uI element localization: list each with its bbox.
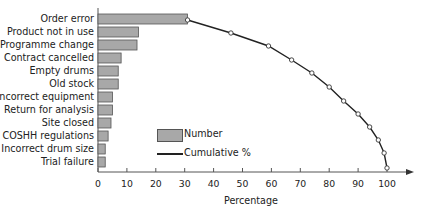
- category-label: COSHH regulations: [2, 130, 94, 142]
- cumulative-point-marker: [382, 151, 386, 155]
- category-label: Order error: [40, 13, 94, 25]
- category-label: Old stock: [49, 78, 94, 90]
- bar: [98, 14, 188, 24]
- cumulative-point-marker: [266, 44, 270, 48]
- bar: [98, 66, 118, 76]
- bar: [98, 118, 111, 128]
- category-label: Site closed: [42, 117, 94, 129]
- legend-cumulative-line: [157, 153, 183, 155]
- cumulative-point-marker: [185, 18, 189, 22]
- cumulative-point-marker: [327, 85, 331, 89]
- bar: [98, 79, 118, 89]
- x-tick-label: 50: [237, 178, 249, 189]
- x-tick-label: 80: [323, 178, 335, 189]
- x-tick-label: 40: [208, 178, 220, 189]
- bar: [98, 144, 105, 154]
- pareto-chart: Order errorProduct not in useProgramme c…: [0, 0, 426, 214]
- legend-number-swatch: [157, 129, 183, 142]
- cumulative-point-marker: [367, 125, 371, 129]
- category-label: Return for analysis: [4, 104, 94, 116]
- cumulative-point-marker: [289, 58, 293, 62]
- bar: [98, 40, 137, 50]
- cumulative-point-marker: [376, 138, 380, 142]
- cumulative-point-marker: [356, 112, 360, 116]
- category-label: Incorrect drum size: [1, 143, 94, 155]
- bar: [98, 105, 112, 115]
- bar: [98, 53, 121, 63]
- x-tick-label: 30: [179, 178, 191, 189]
- category-label: Empty drums: [30, 65, 94, 77]
- x-tick-label: 70: [294, 178, 306, 189]
- bar: [98, 157, 105, 167]
- legend-cumulative-label: Cumulative %: [184, 147, 251, 158]
- category-label: Contract cancelled: [4, 52, 94, 64]
- x-axis-title: Percentage: [224, 195, 278, 206]
- legend-number-label: Number: [184, 128, 223, 139]
- cumulative-point-marker: [229, 31, 233, 35]
- x-tick-label: 0: [95, 178, 101, 189]
- bar: [98, 92, 112, 102]
- category-label: Product not in use: [7, 26, 94, 38]
- category-label: Trial failure: [41, 156, 94, 168]
- cumulative-line: [188, 20, 387, 168]
- bar: [98, 27, 138, 37]
- x-axis-arrow-icon: [406, 169, 414, 175]
- x-tick-label: 60: [265, 178, 277, 189]
- category-label: Incorrect equipment: [0, 91, 94, 103]
- x-tick-label: 90: [352, 178, 364, 189]
- cumulative-point-marker: [310, 71, 314, 75]
- cumulative-point-marker: [341, 99, 345, 103]
- category-label: Programme change: [0, 39, 94, 51]
- x-tick-label: 10: [121, 178, 133, 189]
- x-tick-label: 20: [150, 178, 162, 189]
- bar: [98, 131, 108, 141]
- x-tick-label: 100: [378, 178, 396, 189]
- cumulative-point-marker: [385, 166, 389, 170]
